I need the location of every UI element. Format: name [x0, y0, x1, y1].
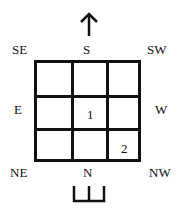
- label-ne: NE: [10, 166, 27, 179]
- label-n: N: [83, 166, 92, 179]
- cell-number-1: 1: [87, 108, 94, 121]
- cell-number-2: 2: [121, 142, 128, 155]
- grid-divider: [37, 95, 138, 98]
- label-se: SE: [12, 43, 27, 56]
- grid-divider: [71, 63, 74, 159]
- label-e: E: [14, 103, 22, 116]
- grid-3x3: 1 2: [34, 60, 141, 162]
- label-w: W: [155, 103, 167, 116]
- grid-divider: [106, 63, 109, 159]
- label-nw: NW: [149, 166, 171, 179]
- label-s: S: [83, 43, 90, 56]
- grid-divider: [37, 128, 138, 131]
- trident-base-icon: [72, 184, 106, 204]
- up-arrow-icon: [79, 12, 99, 38]
- label-sw: SW: [147, 43, 167, 56]
